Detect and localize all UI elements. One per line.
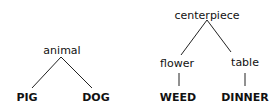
edge-animal-pig — [32, 57, 61, 88]
node-dog: DOG — [82, 92, 110, 103]
node-dinner: DINNER — [221, 92, 269, 103]
edge-animal-dog — [61, 57, 92, 88]
node-table: table — [231, 57, 259, 68]
node-animal: animal — [43, 45, 80, 56]
edge-centerpiece-flower — [181, 20, 207, 55]
node-flower: flower — [160, 58, 194, 69]
node-centerpiece: centerpiece — [174, 10, 239, 21]
edge-centerpiece-table — [207, 20, 231, 52]
node-weed: WEED — [160, 92, 196, 103]
node-pig: PIG — [16, 92, 37, 103]
